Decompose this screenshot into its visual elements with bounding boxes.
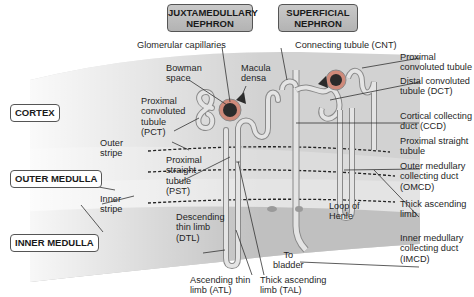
label-line: Bowman [166, 63, 202, 73]
label-line: convoluted tubule [400, 62, 472, 72]
header-line: JUXTAMEDULLARY [168, 7, 252, 18]
label-line: densa [241, 73, 271, 83]
label-proximal-straight-tubule: Proximal straight tubule [400, 136, 468, 157]
header-line: SUPERFICIAL [279, 7, 357, 18]
label-line: Inner medullary [400, 233, 463, 243]
label-line: duct (CCD) [400, 121, 472, 131]
label-line: convoluted [141, 106, 185, 116]
label-omcd: Outer medullary collecting duct (OMCD) [400, 161, 465, 192]
label-line: Thick ascending [400, 199, 466, 209]
label-loop-of-henle: Loop of Henle [329, 201, 360, 222]
label-glomerular-capillaries: Glomerular capillaries [137, 40, 226, 50]
label-line: Descending [176, 212, 225, 222]
label-to-bladder: To bladder [273, 250, 304, 271]
label-inner-stripe: Inner stripe [100, 194, 122, 215]
label-line: To [273, 250, 304, 260]
label-line: (IMCD) [400, 254, 463, 264]
label-line: Henle [329, 211, 360, 221]
nephron-diagram: JUXTAMEDULLARY NEPHRON SUPERFICIAL NEPHR… [0, 0, 474, 297]
label-line: straight [166, 165, 202, 175]
label-line: collecting duct [400, 171, 465, 181]
label-line: limb (TAL) [260, 285, 326, 295]
label-line: bladder [273, 260, 304, 270]
label-line: Proximal [400, 52, 472, 62]
juxtamedullary-header: JUXTAMEDULLARY NEPHRON [167, 4, 253, 32]
label-dct: Distal convoluted tubule (DCT) [400, 76, 470, 97]
label-line: Outer medullary [400, 161, 465, 171]
label-line: stripe [100, 204, 122, 214]
label-line: Outer [100, 138, 123, 148]
label-line: Proximal [166, 155, 202, 165]
label-line: Inner [100, 194, 122, 204]
label-line: (PST) [166, 186, 202, 196]
label-thick-ascending-limb: Thick ascending limb [400, 199, 466, 220]
label-line: limb [400, 209, 466, 219]
label-proximal-convoluted-tubule: Proximal convoluted tubule [400, 52, 472, 73]
label-macula-densa: Macula densa [241, 63, 271, 84]
label-line: Cortical collecting [400, 111, 472, 121]
label-line: stripe [100, 148, 123, 158]
label-line: Distal convoluted [400, 76, 470, 86]
label-line: Proximal straight [400, 136, 468, 146]
label-line: tubule [141, 117, 185, 127]
label-pct: Proximal convoluted tubule (PCT) [141, 96, 185, 138]
label-line: thin limb [176, 222, 225, 232]
label-line: space [166, 73, 202, 83]
label-line: (PCT) [141, 127, 185, 137]
label-line: tubule [166, 176, 202, 186]
label-cnt: Connecting tubule (CNT) [295, 40, 397, 50]
label-tal: Thick ascending limb (TAL) [260, 275, 326, 296]
label-line: tubule [400, 146, 468, 156]
label-line: Loop of [329, 201, 360, 211]
header-line: NEPHRON [168, 18, 252, 29]
label-line: (OMCD) [400, 182, 465, 192]
label-pst: Proximal straight tubule (PST) [166, 155, 202, 197]
label-line: collecting duct [400, 243, 463, 253]
header-line: NEPHRON [279, 18, 357, 29]
label-ccd: Cortical collecting duct (CCD) [400, 111, 472, 132]
label-bowman-space: Bowman space [166, 63, 202, 84]
label-imcd: Inner medullary collecting duct (IMCD) [400, 233, 463, 264]
zone-inner-medulla: INNER MEDULLA [10, 234, 99, 252]
zone-cortex: CORTEX [10, 104, 60, 122]
label-line: Proximal [141, 96, 185, 106]
label-line: limb (ATL) [190, 285, 250, 295]
label-line: Thick ascending [260, 275, 326, 285]
superficial-header: SUPERFICIAL NEPHRON [278, 4, 358, 32]
label-line: Ascending thin [190, 275, 250, 285]
label-line: (DTL) [176, 233, 225, 243]
zone-outer-medulla: OUTER MEDULLA [10, 170, 102, 188]
label-line: Macula [241, 63, 271, 73]
label-outer-stripe: Outer stripe [100, 138, 123, 159]
label-atl: Ascending thin limb (ATL) [190, 275, 250, 296]
label-line: tubule (DCT) [400, 86, 470, 96]
label-dtl: Descending thin limb (DTL) [176, 212, 225, 243]
